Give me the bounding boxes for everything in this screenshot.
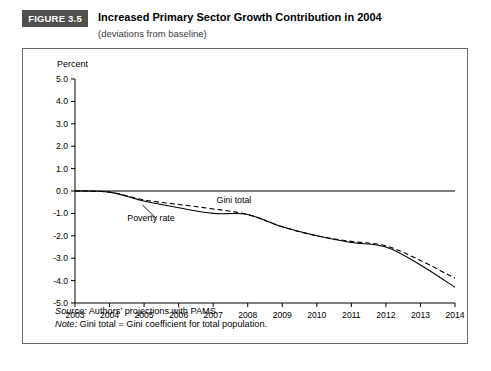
svg-text:-3.0: -3.0 (53, 253, 68, 263)
svg-text:-2.0: -2.0 (53, 231, 68, 241)
figure-notes: Source: Authors’ projections with PAMS. … (55, 305, 455, 331)
svg-text:-1.0: -1.0 (53, 208, 68, 218)
series-poverty-rate (75, 191, 455, 287)
figure-title: Increased Primary Sector Growth Contribu… (98, 11, 382, 23)
general-note: Note: Gini total = Gini coefficient for … (55, 318, 455, 331)
figure-container: FIGURE 3.5 Increased Primary Sector Grow… (0, 0, 491, 371)
svg-text:4.0: 4.0 (56, 96, 68, 106)
annotation-poverty-rate: Poverty rate (127, 213, 175, 223)
plot-area: Percent 5.04.03.02.01.00.0-1.0-2.0-3.0-4… (23, 49, 469, 345)
source-label: Source: (55, 306, 87, 316)
figure-header: FIGURE 3.5 Increased Primary Sector Grow… (22, 10, 470, 46)
figure-number-badge: FIGURE 3.5 (22, 10, 88, 27)
note-text: Gini total = Gini coefficient for total … (77, 319, 267, 329)
note-label: Note: (55, 319, 77, 329)
source-text: Authors’ projections with PAMS. (87, 306, 219, 316)
svg-text:-4.0: -4.0 (53, 276, 68, 286)
series-gini-total (75, 191, 455, 278)
svg-text:5.0: 5.0 (56, 74, 68, 84)
line-chart: 5.04.03.02.01.00.0-1.0-2.0-3.0-4.0-5.020… (23, 49, 469, 345)
source-note: Source: Authors’ projections with PAMS. (55, 305, 455, 318)
annotation-gini-total: Gini total (217, 195, 252, 205)
svg-text:3.0: 3.0 (56, 119, 68, 129)
figure-subtitle: (deviations from baseline) (98, 28, 207, 39)
svg-text:1.0: 1.0 (56, 164, 68, 174)
chart-panel: Percent 5.04.03.02.01.00.0-1.0-2.0-3.0-4… (22, 48, 468, 344)
svg-text:0.0: 0.0 (56, 186, 68, 196)
svg-text:2.0: 2.0 (56, 141, 68, 151)
